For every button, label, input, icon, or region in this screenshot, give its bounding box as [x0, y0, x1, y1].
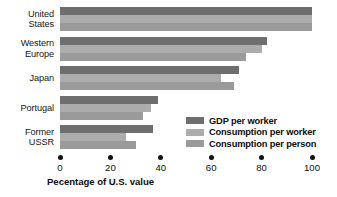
x-tick-marker — [58, 155, 63, 160]
chart-legend: GDP per workerConsumption per workerCons… — [186, 115, 334, 150]
x-axis: 020406080100 — [60, 155, 312, 177]
x-tick-label: 40 — [141, 162, 181, 173]
bar — [60, 104, 151, 112]
x-tick-label: 0 — [40, 162, 80, 173]
bar — [60, 45, 262, 53]
x-tick-label: 80 — [242, 162, 282, 173]
category-label: Portugal — [0, 103, 54, 113]
category-label: Former USSR — [0, 127, 54, 148]
legend-label: GDP per worker — [209, 116, 277, 126]
bar — [60, 7, 312, 15]
bar-chart: United StatesWestern EuropeJapanPortugal… — [0, 0, 337, 197]
x-tick-marker — [108, 155, 113, 160]
bar — [60, 82, 234, 90]
x-tick-marker — [310, 155, 315, 160]
legend-item: Consumption per worker — [186, 127, 334, 138]
legend-swatch-icon — [186, 117, 204, 124]
bar — [60, 37, 267, 45]
x-tick-marker — [259, 155, 264, 160]
bar-group — [60, 37, 312, 61]
bar — [60, 74, 221, 82]
category-label: Japan — [0, 73, 54, 83]
x-tick-label: 60 — [191, 162, 231, 173]
legend-item: GDP per worker — [186, 115, 334, 126]
x-axis-title: Pecentage of U.S. value — [47, 176, 154, 187]
bar — [60, 23, 312, 31]
x-tick-label: 100 — [292, 162, 332, 173]
bar — [60, 15, 312, 23]
legend-label: Consumption per person — [209, 139, 316, 149]
x-tick-marker — [158, 155, 163, 160]
category-label: United States — [0, 9, 54, 30]
bar — [60, 133, 126, 141]
bar — [60, 112, 143, 120]
bar — [60, 96, 158, 104]
x-tick-marker — [209, 155, 214, 160]
bar-group — [60, 66, 312, 90]
bar — [60, 141, 136, 149]
legend-swatch-icon — [186, 140, 204, 147]
category-label: Western Europe — [0, 38, 54, 59]
bar-group — [60, 7, 312, 31]
bar — [60, 66, 239, 74]
legend-item: Consumption per person — [186, 138, 334, 149]
legend-label: Consumption per worker — [209, 127, 316, 137]
legend-swatch-icon — [186, 129, 204, 136]
x-tick-label: 20 — [90, 162, 130, 173]
bar — [60, 53, 246, 61]
bar — [60, 125, 153, 133]
category-axis: United StatesWestern EuropeJapanPortugal… — [0, 7, 54, 155]
